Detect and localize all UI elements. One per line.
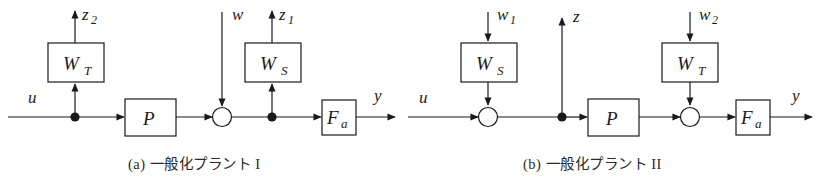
block-label-P-b: P xyxy=(605,108,618,129)
block-label-Fa-b: F xyxy=(740,107,753,128)
signal-sublabel-w1-b: 1 xyxy=(510,13,516,27)
signal-label-z2-a: z xyxy=(81,5,89,24)
signal-label-y-a: y xyxy=(372,86,382,105)
summing-junction-a xyxy=(213,108,232,127)
signal-label-z-b: z xyxy=(572,7,580,26)
signal-label-w1-b: w xyxy=(497,5,509,24)
summing-junction-2-b xyxy=(681,108,700,127)
block-label-WT-b: W xyxy=(677,53,695,74)
block-label-Fa-a: F xyxy=(326,107,339,128)
block-sublabel-WS-a: S xyxy=(281,63,288,78)
signal-label-y-b: y xyxy=(790,86,800,105)
branch-node-a-1 xyxy=(70,112,79,121)
block-label-P-a: P xyxy=(142,108,155,129)
block-label-WS-a: W xyxy=(260,53,278,74)
signal-sublabel-z2-a: 2 xyxy=(91,13,97,27)
signal-label-z1-a: z xyxy=(278,5,286,24)
signal-label-u-b: u xyxy=(419,88,428,107)
signal-sublabel-w2-b: 2 xyxy=(712,13,718,27)
diagram-canvas: W T P W S F a u z 2 w z 1 y W S P W T F … xyxy=(0,0,829,189)
block-sublabel-WT-b: T xyxy=(698,63,706,78)
figure-block-diagrams: W T P W S F a u z 2 w z 1 y W S P W T F … xyxy=(0,0,829,189)
block-sublabel-Fa-b: a xyxy=(755,116,762,131)
block-sublabel-WS-b: S xyxy=(497,63,504,78)
signal-label-u-a: u xyxy=(28,88,37,107)
caption-panel-b: (b) 一般化プラント II xyxy=(523,152,662,173)
summing-junction-1-b xyxy=(479,108,498,127)
caption-panel-a: (a) 一般化プラント I xyxy=(128,152,261,173)
branch-node-b-1 xyxy=(557,112,566,121)
branch-node-a-2 xyxy=(267,112,276,121)
signal-label-w2-b: w xyxy=(699,5,711,24)
signal-label-w-a: w xyxy=(232,5,244,24)
block-sublabel-Fa-a: a xyxy=(341,116,348,131)
block-sublabel-WT-a: T xyxy=(84,63,92,78)
block-label-WS-b: W xyxy=(476,53,494,74)
signal-sublabel-z1-a: 1 xyxy=(288,13,294,27)
block-label-WT-a: W xyxy=(63,53,81,74)
